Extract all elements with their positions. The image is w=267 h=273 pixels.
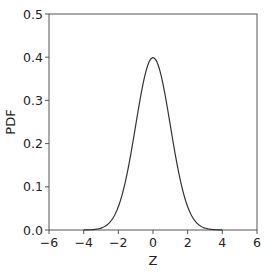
x-tick-label: 2 — [184, 235, 192, 250]
x-tick-label: −2 — [109, 235, 127, 250]
y-tick-label: 0.2 — [23, 136, 43, 151]
y-axis-label: PDF — [3, 109, 18, 134]
x-tick-label: −6 — [40, 235, 58, 250]
x-tick-label: 6 — [253, 235, 261, 250]
y-axis-ticks: 0.00.10.20.30.40.5 — [23, 7, 49, 238]
y-tick-label: 0.5 — [23, 7, 43, 22]
y-tick-label: 0.1 — [23, 179, 43, 194]
x-tick-label: 4 — [218, 235, 226, 250]
chart: 0.00.10.20.30.40.5 −6−4−20246 Z PDF — [0, 0, 267, 273]
x-axis-ticks: −6−4−20246 — [40, 230, 261, 250]
x-axis-label: Z — [149, 253, 158, 268]
y-tick-label: 0.4 — [23, 50, 43, 65]
x-tick-label: 0 — [149, 235, 157, 250]
x-tick-label: −4 — [74, 235, 92, 250]
plot-area — [49, 14, 257, 230]
y-tick-label: 0.3 — [23, 93, 43, 108]
